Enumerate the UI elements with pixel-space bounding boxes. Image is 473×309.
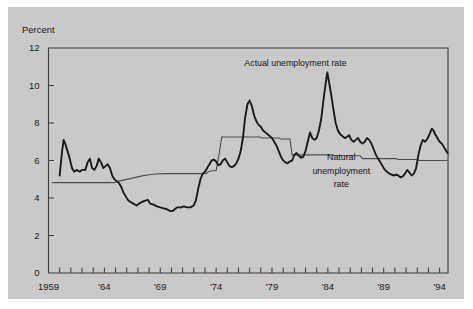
plot-frame	[49, 48, 449, 273]
natural-series-label-line2: unemployment	[312, 166, 370, 176]
y-tick-label: 10	[29, 80, 40, 91]
y-tick-label: 12	[29, 42, 40, 53]
x-tick-label: '74	[210, 281, 222, 292]
actual-series-label: Actual unemployment rate	[244, 58, 346, 68]
natural-series-label-line1: Natural	[327, 152, 355, 162]
y-tick-label: 8	[34, 117, 39, 128]
x-tick-label: '89	[378, 281, 390, 292]
y-tick-label: 4	[34, 192, 39, 203]
x-tick-label: '79	[266, 281, 278, 292]
data-series-group	[52, 72, 448, 211]
unemployment-rate-chart-figure: Percent 024681012 1959'64'69'74'79'84'89…	[0, 0, 473, 309]
x-axis-ticks: 1959'64'69'74'79'84'89'94	[38, 268, 446, 293]
y-axis-title: Percent	[22, 24, 55, 35]
series-line-actual-unemployment-rate	[60, 72, 448, 211]
x-tick-label: '69	[154, 281, 166, 292]
x-tick-label: '64	[98, 281, 110, 292]
y-tick-label: 6	[34, 155, 39, 166]
y-tick-label: 0	[34, 267, 39, 278]
y-tick-label: 2	[34, 230, 39, 241]
x-tick-label: '84	[322, 281, 334, 292]
y-axis-ticks: 024681012	[29, 42, 54, 278]
x-tick-label: '94	[433, 281, 445, 292]
chart-annotations: Actual unemployment rateNaturalunemploym…	[244, 58, 370, 189]
x-tick-label: 1959	[38, 281, 59, 292]
chart-svg-canvas: Percent 024681012 1959'64'69'74'79'84'89…	[0, 0, 473, 309]
natural-series-label-line3: rate	[334, 179, 349, 189]
series-line-natural-unemployment-rate	[52, 137, 448, 183]
